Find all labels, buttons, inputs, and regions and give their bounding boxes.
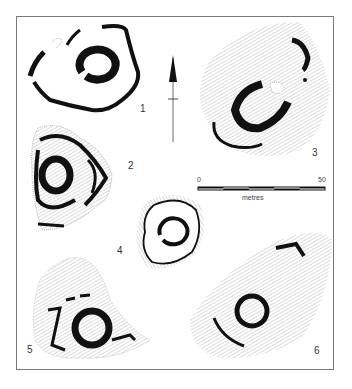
plan-4 [136, 195, 204, 269]
plan-1 [30, 26, 138, 110]
plan-label-2: 2 [128, 160, 134, 171]
plan-5 [33, 258, 150, 359]
scale-bar [198, 187, 325, 190]
plan-label-5: 5 [27, 344, 33, 355]
site-plans-drawing [0, 0, 352, 389]
plan-label-6: 6 [314, 345, 320, 356]
scale-start-label: 0 [197, 176, 201, 183]
scale-unit-label: metres [242, 194, 263, 201]
plan-label-3: 3 [312, 147, 318, 158]
plan-label-4: 4 [117, 245, 123, 256]
plan-2 [32, 126, 112, 230]
plan-label-1: 1 [140, 103, 146, 114]
plan-3 [200, 22, 330, 156]
plan-6 [190, 233, 332, 359]
scale-end-label: 50 [318, 176, 326, 183]
north-arrow-icon [168, 55, 178, 142]
